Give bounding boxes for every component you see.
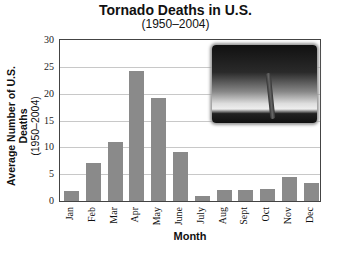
bar-aug	[217, 190, 232, 201]
x-axis-label: Month	[59, 230, 321, 242]
bar-feb	[86, 163, 101, 201]
tornado-funnel	[266, 73, 276, 119]
bar-dec	[304, 183, 319, 201]
bar-sept	[238, 190, 253, 201]
y-tick-label: 20	[34, 88, 54, 99]
bar-mar	[108, 142, 123, 201]
bar-may	[151, 98, 166, 201]
tornado-photo	[212, 45, 317, 123]
y-tick-label: 10	[34, 141, 54, 152]
y-tick-label: 25	[34, 61, 54, 72]
bar-nov	[282, 177, 297, 201]
bar-july	[195, 196, 210, 201]
y-tick-label: 30	[34, 34, 54, 45]
y-tick-label: 5	[34, 168, 54, 179]
bar-jan	[64, 191, 79, 201]
y-tick-label: 15	[34, 115, 54, 126]
bar-june	[173, 152, 188, 201]
y-axis-label-main: Average Number of U.S. Deaths	[5, 51, 29, 201]
gridline	[60, 147, 320, 148]
chart-subtitle: (1950–2004)	[0, 17, 351, 31]
plot-area	[59, 39, 321, 202]
bar-oct	[260, 189, 275, 201]
chart-title: Tornado Deaths in U.S.	[0, 2, 351, 18]
y-tick-label: 0	[34, 195, 54, 206]
bar-apr	[129, 71, 144, 201]
